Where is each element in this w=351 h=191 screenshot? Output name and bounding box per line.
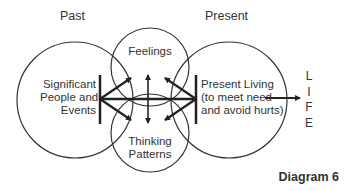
- present-circle-label: Present Living (to meet need and avoid h…: [201, 78, 283, 117]
- present-header: Present: [205, 10, 248, 23]
- thinking-label-line: Thinking: [120, 135, 180, 148]
- life-letter: E: [303, 116, 315, 132]
- feelings-label: Feelings: [125, 45, 175, 58]
- past-circle-label: Significant People and Events: [40, 78, 96, 117]
- life-letter: F: [303, 100, 315, 116]
- past-header: Past: [60, 10, 85, 23]
- present-label-line: (to meet need: [201, 91, 283, 104]
- past-label-line: Significant: [40, 78, 96, 91]
- life-letter: I: [303, 85, 315, 101]
- arrow-right-down: [165, 99, 196, 120]
- life-label: L I F E: [303, 69, 315, 131]
- present-label-line: and avoid hurts): [201, 104, 283, 117]
- diagram-caption: Diagram 6: [279, 170, 339, 184]
- past-label-line: People and: [40, 91, 96, 104]
- past-label-line: Events: [40, 104, 96, 117]
- arrow-left-up: [100, 78, 131, 99]
- arrow-right-up: [165, 78, 196, 99]
- present-label-line: Present Living: [201, 78, 283, 91]
- thinking-label-line: Patterns: [120, 148, 180, 161]
- thinking-label: Thinking Patterns: [120, 135, 180, 161]
- life-letter: L: [303, 69, 315, 85]
